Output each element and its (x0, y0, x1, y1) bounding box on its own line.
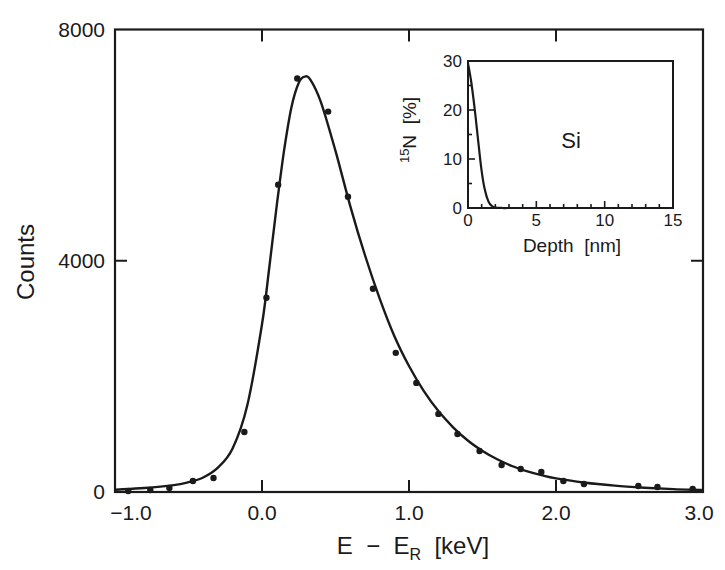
y-tick-label: 8000 (58, 18, 105, 41)
data-point (294, 75, 300, 81)
data-point (393, 350, 399, 356)
inset-y-axis-title-superscript: 15 (397, 149, 412, 163)
y-axis-title: Counts (12, 224, 39, 300)
data-point (476, 448, 482, 454)
inset-annotation-si: Si (561, 128, 581, 153)
chart-canvas: −1.00.01.02.03.0040008000 Counts E − ER … (0, 0, 725, 570)
data-point (654, 484, 660, 490)
x-axis-title-main: E − E (337, 532, 410, 559)
inset-x-axis-title: Depth [nm] (523, 235, 621, 256)
data-point (560, 478, 566, 484)
x-axis-title-unit: [keV] (421, 532, 489, 559)
x-tick-label: 1.0 (394, 501, 423, 524)
inset-y-tick-label: 30 (443, 52, 462, 71)
data-point (498, 462, 504, 468)
data-point (210, 475, 216, 481)
inset-plot: 0510150102030 Si Depth [nm] 15N [%] (397, 52, 682, 256)
data-point (241, 429, 247, 435)
data-point (166, 485, 172, 491)
inset-x-tick-label: 10 (595, 211, 614, 230)
inset-y-tick-label: 0 (453, 199, 462, 218)
data-point (370, 286, 376, 292)
data-point (125, 488, 131, 494)
data-point (263, 295, 269, 301)
data-point (690, 486, 696, 492)
x-axis-title: E − ER [keV] (337, 532, 489, 563)
inset-x-tick-label: 0 (463, 211, 472, 230)
inset-y-tick-label: 10 (443, 150, 462, 169)
data-point (581, 481, 587, 487)
data-point (454, 431, 460, 437)
data-point (275, 181, 281, 187)
data-point (538, 469, 544, 475)
data-point (635, 483, 641, 489)
data-point (413, 380, 419, 386)
inset-y-axis-title: 15N [%] (397, 97, 420, 163)
data-point (147, 487, 153, 493)
data-point (435, 411, 441, 417)
data-point (190, 478, 196, 484)
x-tick-label: 3.0 (684, 501, 713, 524)
x-tick-label: 2.0 (541, 501, 570, 524)
inset-y-tick-label: 20 (443, 101, 462, 120)
x-tick-label: 0.0 (247, 501, 276, 524)
x-tick-label: −1.0 (110, 501, 151, 524)
data-point (325, 108, 331, 114)
inset-x-tick-label: 15 (664, 211, 683, 230)
y-tick-label: 4000 (58, 249, 105, 272)
chart: −1.00.01.02.03.0040008000 Counts E − ER … (0, 0, 725, 570)
data-point (345, 193, 351, 199)
inset-y-axis-title-main: N [%] (399, 97, 420, 149)
data-point (518, 466, 524, 472)
y-tick-label: 0 (93, 480, 105, 503)
inset-x-tick-label: 5 (532, 211, 541, 230)
x-axis-title-subscript: R (410, 546, 422, 563)
